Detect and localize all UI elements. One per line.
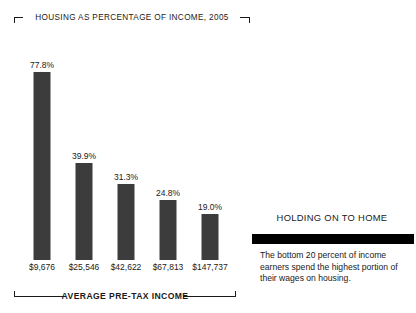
chart-title-bracket: HOUSING AS PERCENTAGE OF INCOME, 2005 [14,10,250,26]
bar [34,72,51,260]
bar-value-label: 19.0% [198,202,222,212]
note-panel: HOLDING ON TO HOME The bottom 20 percent… [250,204,416,313]
chart-title: HOUSING AS PERCENTAGE OF INCOME, 2005 [24,10,240,25]
bar-value-label: 39.9% [72,151,96,161]
category-axis-labels: $9,676 $25,546 $42,622 $67,813 $147,737 [0,262,250,276]
title-bracket-tick-right [249,17,250,23]
note-body-text: The bottom 20 percent of income earners … [260,250,412,285]
bar [202,214,219,260]
x-axis-label: AVERAGE PRE-TAX INCOME [14,290,236,303]
bar-value-label: 31.3% [114,172,138,182]
plot-area: 77.8% 39.9% 31.3% 24.8% 19.0% [0,28,250,260]
bar-group: 39.9% [62,28,106,260]
bar-group: 31.3% [104,28,148,260]
bar-group: 77.8% [20,28,64,260]
category-label: $147,737 [184,262,236,272]
bar-group: 19.0% [188,28,232,260]
note-headline: HOLDING ON TO HOME [250,212,414,223]
bar [76,163,93,260]
bar-group: 24.8% [146,28,190,260]
title-bracket-rule-right [240,17,249,18]
title-bracket-rule-left [14,17,23,18]
bar-chart-panel: HOUSING AS PERCENTAGE OF INCOME, 2005 77… [0,0,250,313]
bar-value-label: 24.8% [156,188,180,198]
bar [160,200,177,260]
axis-label-bracket: AVERAGE PRE-TAX INCOME [14,288,236,304]
bar-value-label: 77.8% [30,60,54,70]
bar [118,184,135,260]
note-divider-bar [252,234,414,244]
